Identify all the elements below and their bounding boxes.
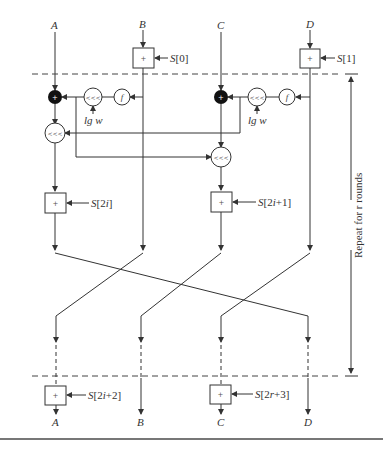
caption-rule xyxy=(0,438,383,440)
rotate-icon: <<< xyxy=(85,94,100,101)
key-s2i2: S[2i+2] xyxy=(88,389,121,401)
rotate-amount-right: lg w xyxy=(248,114,267,126)
xor-symbol: + xyxy=(218,94,224,102)
label-d-out: D xyxy=(303,416,312,428)
plus-icon: + xyxy=(141,55,147,63)
key-s2i: S[2i] xyxy=(91,197,112,209)
key-s2r3: S[2r+3] xyxy=(255,388,289,400)
wire-a-to-d xyxy=(55,253,308,342)
rotate-icon: <<< xyxy=(249,94,264,101)
key-s1: S[1] xyxy=(337,52,355,64)
xor-symbol: + xyxy=(52,94,58,102)
plus-icon: + xyxy=(219,199,225,207)
rotate-icon: <<< xyxy=(213,154,228,161)
label-a-out: A xyxy=(51,416,59,428)
wire-b-to-a xyxy=(56,253,143,342)
label-d-in: D xyxy=(305,18,314,30)
plus-icon: + xyxy=(218,391,224,399)
key-s2i1: S[2i+1] xyxy=(258,196,291,208)
label-b-out: B xyxy=(137,416,144,428)
repeat-label: Repeat for r rounds xyxy=(352,173,364,258)
label-c-in: C xyxy=(217,19,225,31)
plus-icon: + xyxy=(53,200,59,208)
key-s0: S[0] xyxy=(170,52,188,64)
label-a-in: A xyxy=(50,19,58,31)
label-b-in: B xyxy=(139,18,146,30)
rotate-amount-left: lg w xyxy=(84,114,103,126)
plus-icon: + xyxy=(53,392,59,400)
rc6-round-diagram: A B C D S[0] S[1] S[2i] S[2i+1] S[2i+2] … xyxy=(0,0,383,452)
rotate-icon: <<< xyxy=(47,130,62,137)
plus-icon: + xyxy=(307,55,313,63)
wire-c-to-b xyxy=(141,253,221,342)
label-c-out: C xyxy=(217,416,225,428)
